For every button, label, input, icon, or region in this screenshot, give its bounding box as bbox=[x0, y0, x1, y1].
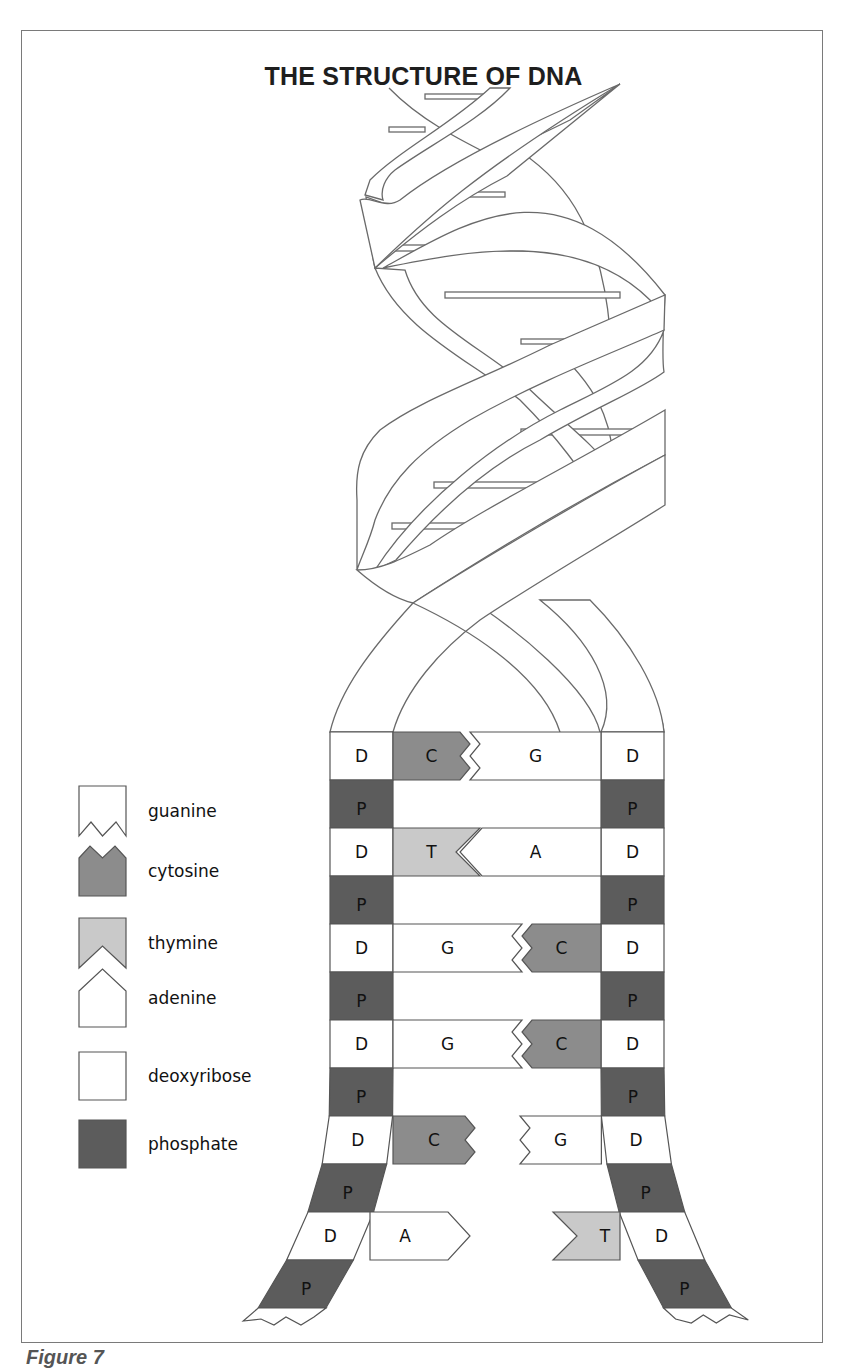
right-base-letter: C bbox=[556, 938, 568, 958]
right-strand-torn-end bbox=[664, 1308, 749, 1323]
right-deoxyribose-label: D bbox=[626, 1034, 639, 1054]
legend-adenine-label: adenine bbox=[148, 988, 216, 1008]
left-deoxyribose-label: D bbox=[351, 1130, 364, 1150]
right-base-letter: G bbox=[554, 1130, 567, 1150]
legend-cytosine-icon bbox=[79, 846, 126, 896]
right-deoxyribose-label: D bbox=[655, 1226, 668, 1246]
right-deoxyribose-label: D bbox=[630, 1130, 643, 1150]
left-base-letter: G bbox=[441, 938, 454, 958]
legend-thymine-icon bbox=[79, 918, 126, 968]
helix-ribbon-right-descending bbox=[540, 600, 664, 732]
double-helix bbox=[330, 84, 665, 732]
left-deoxyribose-label: D bbox=[355, 842, 368, 862]
legend-adenine-icon bbox=[79, 969, 126, 1027]
right-base-letter: C bbox=[556, 1034, 568, 1054]
legend-deoxyribose-label: deoxyribose bbox=[148, 1066, 251, 1086]
left-deoxyribose-label: D bbox=[355, 938, 368, 958]
left-deoxyribose-label: D bbox=[355, 746, 368, 766]
right-base-letter: T bbox=[599, 1226, 611, 1246]
right-deoxyribose-label: D bbox=[626, 842, 639, 862]
left-base-adenine bbox=[370, 1212, 470, 1260]
left-phosphate-label: P bbox=[356, 1087, 366, 1107]
left-base-letter: C bbox=[426, 746, 438, 766]
left-base-letter: T bbox=[425, 842, 437, 862]
left-phosphate-label: P bbox=[356, 991, 366, 1011]
dna-ladder: DDPPDDPPDDPPDDPPDDPPDDPPCGTAGCGCCGAT bbox=[243, 732, 748, 1325]
left-phosphate-label: P bbox=[356, 799, 366, 819]
left-base-guanine bbox=[393, 924, 522, 972]
left-deoxyribose-label: D bbox=[324, 1226, 337, 1246]
left-base-guanine bbox=[393, 1020, 522, 1068]
right-deoxyribose-label: D bbox=[626, 938, 639, 958]
legend-phosphate-icon bbox=[79, 1120, 126, 1168]
right-base-letter: A bbox=[530, 842, 542, 862]
left-phosphate-label: P bbox=[301, 1279, 311, 1299]
legend-thymine-label: thymine bbox=[148, 933, 218, 953]
left-base-letter: G bbox=[441, 1034, 454, 1054]
left-deoxyribose-label: D bbox=[355, 1034, 368, 1054]
right-phosphate-label: P bbox=[627, 991, 637, 1011]
legend-phosphate-label: phosphate bbox=[148, 1134, 238, 1154]
right-phosphate-label: P bbox=[640, 1183, 650, 1203]
legend-cytosine-label: cytosine bbox=[148, 861, 219, 881]
right-phosphate-label: P bbox=[679, 1279, 689, 1299]
legend: guaninecytosinethymineadeninedeoxyribose… bbox=[79, 786, 251, 1168]
left-strand-torn-end bbox=[243, 1308, 326, 1325]
left-base-letter: A bbox=[399, 1226, 411, 1246]
right-deoxyribose-label: D bbox=[626, 746, 639, 766]
right-phosphate-label: P bbox=[628, 1087, 638, 1107]
right-phosphate-label: P bbox=[627, 799, 637, 819]
right-base-letter: G bbox=[529, 746, 542, 766]
left-phosphate-label: P bbox=[356, 895, 366, 915]
left-base-letter: C bbox=[428, 1130, 440, 1150]
left-phosphate-label: P bbox=[342, 1183, 352, 1203]
legend-deoxyribose-icon bbox=[79, 1052, 126, 1100]
legend-guanine-icon bbox=[79, 786, 126, 836]
right-phosphate-label: P bbox=[627, 895, 637, 915]
legend-guanine-label: guanine bbox=[148, 801, 217, 821]
